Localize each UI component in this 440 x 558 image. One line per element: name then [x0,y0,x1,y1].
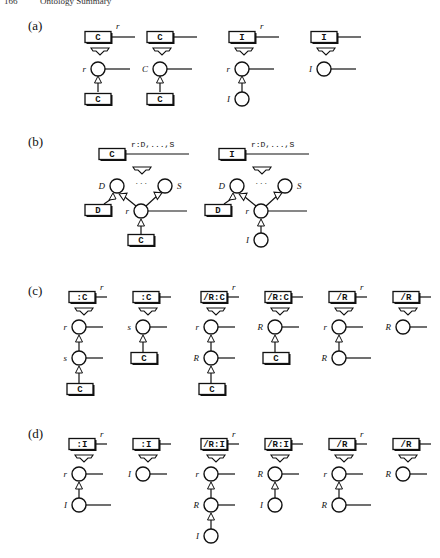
transform-arrow-icon [271,308,289,315]
arrowhead-icon [157,76,164,83]
node-label: R [193,500,200,510]
top-variable: r [360,282,364,292]
concept-box-label: D [95,206,101,216]
node-label: r [245,206,249,216]
ellipsis-dots: · · · [255,178,266,188]
referent-node [396,320,410,334]
concept-box-label: C [95,95,101,105]
transform-arrow-icon [153,48,171,55]
referent-node [204,467,218,481]
concept-box-label: C [273,354,279,364]
node-label: C [142,64,149,74]
concept-box-label: C [109,150,115,160]
arrowhead-icon [95,76,102,83]
arrowhead-icon [208,513,215,520]
panel-d: (d):IrrI:II/R:IrrRI/R:IRI/RrrR/RR [28,426,431,543]
transform-item: /R:IrrRI [193,429,240,543]
transform-item: Ir:D,...,SDS· · ·rDI [205,140,309,247]
node-label: r [63,469,67,479]
arrowhead-icon [208,482,215,489]
page-number: 166 [4,0,18,6]
transform-arrow-icon [235,48,253,55]
referent-node [235,62,249,76]
transform-arrow-icon [335,455,353,462]
referent-node [332,351,346,365]
transform-item: /R:IRI [257,439,304,513]
concept-box-label: I [229,150,234,160]
referent-node [72,498,86,512]
panel-a: (a)CrrCCCCIrrIII [28,18,361,106]
transform-arrow-icon [91,48,109,55]
concept-box-label: :I [141,440,152,450]
transform-item: II [308,32,361,77]
node-label: I [259,500,264,510]
transform-arrow-icon [399,455,417,462]
top-variable: r:D,...,S [131,140,174,149]
branch-line [245,197,256,206]
transform-item: :II [127,439,171,482]
top-variable: r:D,...,S [251,140,294,149]
node-label: I [245,235,250,245]
transform-arrow-icon [335,308,353,315]
concept-box-label: /R [401,440,412,450]
arrowhead-icon [76,366,83,373]
referent-node [134,204,148,218]
node-label: r [125,206,129,216]
transform-item: /RrrR [321,429,372,512]
ellipsis-dots: · · · [135,178,146,188]
transform-arrow-icon [75,455,93,462]
node-label: I [195,531,200,541]
referent-node [332,320,346,334]
referent-node [254,233,268,247]
referent-node [91,62,105,76]
arrowhead-icon [76,335,83,342]
referent-node [153,62,167,76]
arrowhead-icon [109,193,116,200]
referent-node [72,467,86,481]
referent-node [204,529,218,543]
panel-b: (b)Cr:D,...,SDS· · ·rDCIr:D,...,SDS· · ·… [28,134,309,247]
arrowhead-icon [239,76,246,83]
concept-box-label: :C [77,293,88,303]
node-label: r [63,322,67,332]
referent-node [136,320,150,334]
referent-node [332,467,346,481]
arrowhead-icon [258,219,265,226]
concept-box-label: :I [77,440,88,450]
referent-node [396,467,410,481]
arrowhead-icon [229,193,236,200]
top-variable: r [232,429,236,439]
concept-box-label: C [77,385,83,395]
concept-box-label: /R:I [203,440,225,450]
node-label: R [321,500,328,510]
node-label: s [127,322,131,332]
node-label: I [63,500,68,510]
node-label: R [385,469,392,479]
node-label: r [195,469,199,479]
concept-box-label: C [95,33,101,43]
node-label: R [257,469,264,479]
transform-arrow-icon [75,308,93,315]
transform-item: /R:CrrRC [193,282,240,396]
transform-arrow-icon [139,455,157,462]
transform-item: CCC [142,32,197,107]
arrowhead-icon [76,482,83,489]
panel-label: (c) [28,283,42,298]
transform-arrow-icon [399,308,417,315]
transform-arrow-icon [317,48,335,55]
transform-item: /RR [385,292,432,335]
concept-box-label: I [239,33,244,43]
referent-node [268,320,282,334]
arrowhead-icon [208,366,215,373]
referent-node [204,320,218,334]
concept-box-label: D [215,206,221,216]
branch-line [125,197,136,206]
transform-item: /RrrR [321,282,372,365]
referent-node [278,179,292,193]
referent-node [254,204,268,218]
concept-box-label: /R:C [203,293,225,303]
concept-box-label: C [157,33,163,43]
running-title: Ontology Summary [40,0,112,6]
transform-arrow-icon [139,308,157,315]
node-label: r [323,322,327,332]
